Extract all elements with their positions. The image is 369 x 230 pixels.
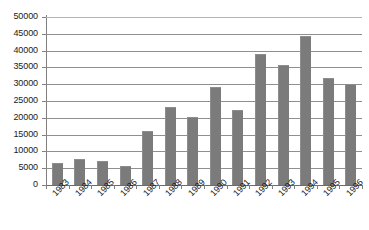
x-axis-tick-origin: [46, 185, 47, 189]
y-axis-tick-30000: [42, 84, 46, 85]
bar-1993: [278, 65, 289, 185]
y-axis-tick-40000: [42, 51, 46, 52]
bar-chart: 0500010000150002000025000300003500040000…: [0, 0, 369, 230]
y-axis-label-40000: 40000: [13, 46, 38, 55]
bar-1995: [323, 78, 334, 185]
y-axis-label-25000: 25000: [13, 96, 38, 105]
bars-layer: [46, 17, 362, 185]
y-axis-label-5000: 5000: [18, 163, 38, 172]
y-axis-tick-5000: [42, 168, 46, 169]
bar-1994: [300, 36, 311, 185]
plot-area: [46, 17, 362, 185]
bar-1996: [345, 84, 356, 185]
y-axis-label-35000: 35000: [13, 62, 38, 71]
y-axis-label-10000: 10000: [13, 146, 38, 155]
y-axis-tick-35000: [42, 67, 46, 68]
y-axis-tick-45000: [42, 34, 46, 35]
y-axis-label-0: 0: [33, 180, 38, 189]
y-axis-tick-20000: [42, 118, 46, 119]
y-axis-label-45000: 45000: [13, 29, 38, 38]
y-axis-label-30000: 30000: [13, 79, 38, 88]
bar-1989: [187, 117, 198, 185]
bar-1988: [165, 107, 176, 185]
y-axis-tick-50000: [42, 17, 46, 18]
y-axis-label-15000: 15000: [13, 130, 38, 139]
y-axis-tick-25000: [42, 101, 46, 102]
bar-1990: [210, 87, 221, 185]
bar-1992: [255, 54, 266, 185]
bar-1987: [142, 131, 153, 185]
y-axis-tick-10000: [42, 151, 46, 152]
y-axis-label-20000: 20000: [13, 113, 38, 122]
y-axis-label-50000: 50000: [13, 12, 38, 21]
y-axis-tick-15000: [42, 135, 46, 136]
bar-1991: [232, 110, 243, 185]
